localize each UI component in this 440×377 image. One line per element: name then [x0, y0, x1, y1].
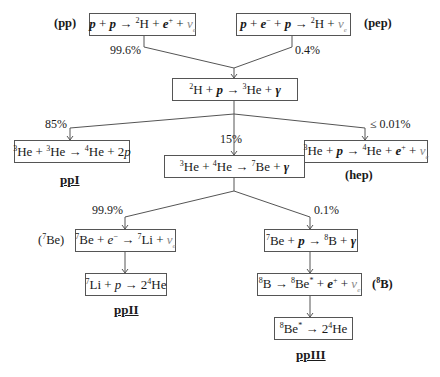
pct-ppIII: 0.1% — [314, 203, 339, 218]
reaction-pep: p + e− + p → 2H + νe — [236, 13, 351, 36]
pct-pep: 0.4% — [295, 43, 320, 58]
pct-hep: ≤ 0.01% — [370, 117, 411, 132]
pct-ppII-III: 15% — [220, 132, 242, 147]
pct-ppI: 85% — [45, 117, 67, 132]
pct-pp: 99.6% — [110, 43, 141, 58]
chain-label-ppIII: ppIII — [296, 347, 326, 363]
tag-b8: (8B) — [372, 277, 393, 292]
chain-label-ppII: ppII — [114, 302, 139, 318]
reaction-deuterium-capture: 2H + p → 3He + γ — [172, 78, 298, 101]
reaction-ppI: 3He + 3He → 4He + 2p — [14, 140, 130, 163]
reaction-he3-he4: 3He + 4He → 7Be + γ — [164, 155, 305, 178]
pct-ppII: 99.9% — [92, 203, 123, 218]
pp-chain-diagram: (pp) (pep) (hep) (7Be) (8B) 99.6% 0.4% 8… — [0, 0, 440, 377]
reaction-b8-decay: 8B → 8Be* + e+ + νe — [257, 273, 362, 296]
tag-hep: (hep) — [345, 168, 373, 183]
reaction-be8-decay: 8Be* → 24He — [274, 317, 353, 340]
reaction-be7-proton: 7Be + p → 8B + γ — [264, 229, 358, 252]
reaction-pp: p + p → 2H + e+ + νe — [89, 13, 196, 36]
tag-pp: (pp) — [54, 16, 76, 31]
reaction-hep: 3He + p → 4He + e+ + νe — [304, 140, 428, 163]
chain-label-ppI: ppI — [60, 172, 80, 188]
tag-be7: (7Be) — [38, 233, 64, 248]
reaction-li7-proton: 7Li + p → 24He — [85, 273, 167, 296]
connector-lines — [0, 0, 440, 377]
tag-pep: (pep) — [364, 16, 392, 31]
reaction-be7-electron-capture: 7Be + e− → 7Li + νe — [75, 229, 176, 252]
